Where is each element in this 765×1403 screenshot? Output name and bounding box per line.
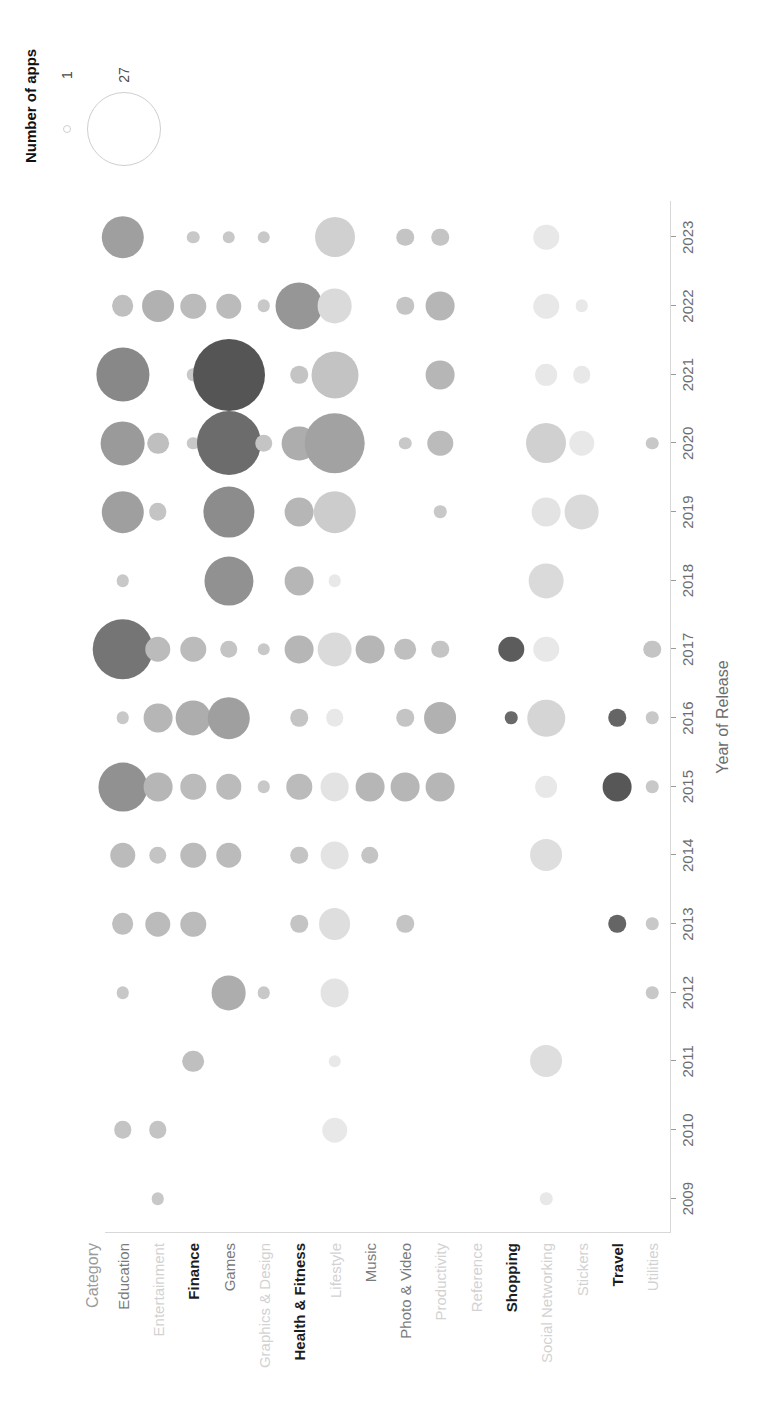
y-tick-label-education: Education [114, 1243, 131, 1310]
bubble [100, 421, 145, 466]
bubble [101, 216, 143, 258]
bubble [526, 423, 566, 463]
bubble [204, 556, 253, 605]
size-legend-title: Number of apps [22, 49, 39, 163]
bubble [116, 574, 129, 587]
x-tick-label: 2011 [679, 1045, 696, 1077]
bubble [573, 366, 591, 384]
y-tick-label-reference: Reference [467, 1243, 484, 1312]
bubble [98, 762, 147, 811]
x-tick-mark [671, 717, 676, 718]
x-tick-label: 2010 [679, 1113, 696, 1146]
bubble [313, 491, 355, 533]
bubble [145, 911, 170, 936]
bubble [328, 1055, 341, 1068]
x-tick-mark [671, 305, 676, 306]
x-tick-label: 2020 [679, 427, 696, 460]
bubble [116, 712, 129, 725]
bubble [391, 772, 420, 801]
bubble [92, 619, 153, 680]
y-tick-label-utilities: Utilities [644, 1243, 661, 1291]
bubble [285, 635, 314, 664]
bubble-chart-figure: 2009201020112012201320142015201620172018… [0, 0, 765, 1403]
bubble [197, 411, 261, 475]
bubble [181, 293, 206, 318]
bubble [276, 283, 323, 330]
bubble [187, 231, 200, 244]
bubble [326, 709, 344, 727]
bubble [112, 913, 134, 935]
y-tick-label-finance: Finance [185, 1243, 202, 1300]
bubble [320, 772, 349, 801]
bubble [311, 351, 358, 398]
bubble [203, 486, 254, 537]
bubble [193, 339, 265, 411]
bubble [147, 432, 169, 454]
bubble [182, 1050, 204, 1072]
bubble [287, 774, 312, 799]
rotated-figure-wrapper: 2009201020112012201320142015201620172018… [0, 0, 765, 1403]
x-tick-mark [671, 580, 676, 581]
bubble [290, 847, 308, 865]
legend-label: 27 [116, 67, 132, 83]
y-tick-label-social-networking: Social Networking [538, 1243, 555, 1363]
x-tick-label: 2013 [679, 907, 696, 940]
bubble [361, 847, 379, 865]
bubble [646, 918, 659, 931]
x-tick-mark [671, 648, 676, 649]
bubble [646, 437, 659, 450]
legend-bubble [63, 125, 71, 133]
x-axis-title: Year of Release [714, 660, 732, 773]
x-tick-mark [671, 923, 676, 924]
bubble [285, 566, 314, 595]
bubble [399, 437, 412, 450]
x-tick-label: 2016 [679, 701, 696, 734]
x-tick-mark [671, 374, 676, 375]
x-tick-mark [671, 442, 676, 443]
bubble [258, 780, 271, 793]
bubble [96, 348, 149, 401]
x-tick-label: 2017 [679, 633, 696, 666]
bubble [569, 431, 594, 456]
x-tick-mark [671, 1060, 676, 1061]
bubble [532, 498, 561, 527]
bubble [220, 641, 238, 659]
bubble [426, 360, 455, 389]
bubble [290, 366, 308, 384]
x-tick-label: 2009 [679, 1182, 696, 1215]
bubble [181, 637, 206, 662]
bubble [536, 776, 558, 798]
bubble [258, 986, 271, 999]
bubble [608, 709, 626, 727]
bubble [396, 229, 414, 247]
bubble [530, 839, 562, 871]
bubble [258, 300, 271, 313]
bubble [317, 289, 352, 324]
y-tick-label-travel: Travel [609, 1243, 626, 1286]
bubble [181, 843, 206, 868]
bubble [646, 712, 659, 725]
x-tick-mark [671, 854, 676, 855]
bubble [211, 975, 246, 1010]
x-tick-label: 2014 [679, 839, 696, 872]
x-tick-mark [671, 511, 676, 512]
bubble [396, 709, 414, 727]
bubble [426, 292, 455, 321]
bubble [396, 297, 414, 315]
bubble [145, 637, 170, 662]
x-tick-label: 2012 [679, 976, 696, 1009]
bubble [530, 1045, 562, 1077]
bubble [644, 641, 662, 659]
bubble [317, 632, 352, 667]
x-tick-label: 2021 [679, 358, 696, 391]
y-axis-title: Category [84, 1243, 102, 1308]
bubble [320, 978, 349, 1007]
bubble [216, 774, 241, 799]
bubble [142, 290, 174, 322]
bubble [575, 300, 588, 313]
y-tick-label-games: Games [220, 1243, 237, 1291]
bubble [608, 915, 626, 933]
y-tick-label-shopping: Shopping [503, 1243, 520, 1312]
x-tick-mark [671, 236, 676, 237]
x-tick-label: 2018 [679, 564, 696, 597]
